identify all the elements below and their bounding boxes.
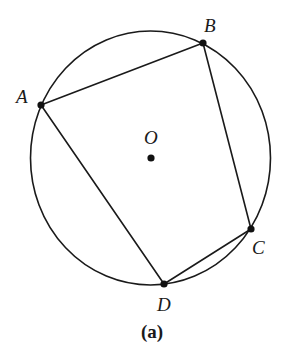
vertex-b (199, 39, 206, 46)
quadrilateral-abcd (41, 43, 251, 284)
cyclic-quadrilateral-diagram: O A B C D (a) (0, 0, 295, 353)
label-d: D (156, 294, 171, 315)
label-o: O (144, 127, 158, 148)
label-a: A (14, 86, 28, 107)
figure-caption: (a) (141, 321, 163, 343)
vertex-d (160, 280, 167, 287)
label-b: B (204, 15, 216, 36)
vertex-a (37, 101, 44, 108)
center-point-o (147, 154, 154, 161)
vertex-c (247, 225, 254, 232)
label-c: C (252, 237, 265, 258)
